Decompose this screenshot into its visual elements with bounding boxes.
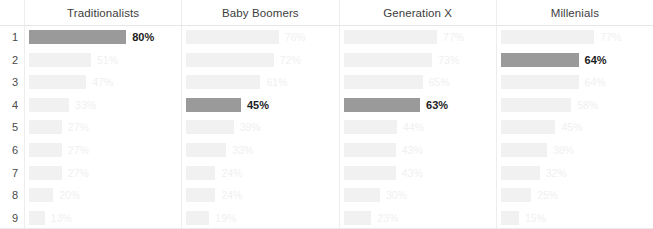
bar-value-label: 24% [215,189,242,201]
bar-track: 77% [344,26,492,49]
bar-track: 72% [186,49,334,72]
bar-track: 43% [344,161,492,184]
bar-cell-baby-boomers: 76% [181,26,338,49]
bar-faded [344,143,396,157]
chart-body: 180%76%77%77%251%72%73%64%347%61%65%64%4… [0,26,653,229]
bar-value-label: 39% [234,121,261,133]
bar-track: 47% [29,71,177,94]
bar-value-label: 23% [371,212,398,224]
bar-track: 27% [29,116,177,139]
bar-value-label: 43% [396,144,423,156]
chart-row: 347%61%65%64% [0,71,653,94]
bar-track: 20% [29,184,177,207]
bar-value-label: 77% [437,31,464,43]
bar-track: 44% [344,116,492,139]
bottom-divider [0,228,653,229]
chart-row: 820%24%30%25% [0,184,653,207]
bar-track: 15% [501,206,649,229]
bar-highlighted [344,98,421,112]
bar-faded [344,30,438,44]
bar-cell-millenials: 64% [496,49,653,72]
bar-value-label: 25% [531,189,558,201]
bar-value-label: 30% [380,189,407,201]
bar-value-label: 15% [519,212,546,224]
row-rank-label: 9 [0,206,24,229]
bar-track: 63% [344,94,492,117]
bar-cell-traditionalists: 33% [24,94,181,117]
bar-cell-millenials: 45% [496,116,653,139]
bar-cell-traditionalists: 27% [24,139,181,162]
bar-cell-baby-boomers: 39% [181,116,338,139]
bar-value-label: 65% [423,76,450,88]
bar-faded [501,30,595,44]
bar-faded [186,120,233,134]
bar-value-label: 73% [432,54,459,66]
bar-highlighted [29,30,126,44]
bar-track: 76% [186,26,334,49]
bar-faded [186,166,215,180]
bar-cell-generation-x: 30% [339,184,496,207]
bar-cell-generation-x: 44% [339,116,496,139]
bar-cell-generation-x: 43% [339,161,496,184]
bar-track: 64% [501,49,649,72]
bar-value-label: 27% [62,167,89,179]
chart-row: 527%39%44%45% [0,116,653,139]
bar-faded [501,120,556,134]
bar-highlighted [501,53,579,67]
bar-cell-generation-x: 77% [339,26,496,49]
row-rank-label: 7 [0,161,24,184]
row-rank-label: 5 [0,116,24,139]
bar-faded [29,166,62,180]
bar-cell-traditionalists: 47% [24,71,181,94]
row-rank-label: 6 [0,139,24,162]
bar-faded [344,53,433,67]
bar-cell-baby-boomers: 33% [181,139,338,162]
row-rank-label: 8 [0,184,24,207]
bar-faded [501,143,547,157]
bar-cell-generation-x: 65% [339,71,496,94]
column-header-generation-x: Generation X [339,0,496,25]
bar-value-label: 43% [396,167,423,179]
bar-cell-traditionalists: 51% [24,49,181,72]
bar-faded [344,188,380,202]
bar-cell-millenials: 58% [496,94,653,117]
bar-cell-generation-x: 63% [339,94,496,117]
bar-faded [186,30,278,44]
bar-track: 73% [344,49,492,72]
bar-cell-millenials: 32% [496,161,653,184]
column-header-baby-boomers: Baby Boomers [181,0,338,25]
bar-value-label: 13% [45,212,72,224]
bar-track: 24% [186,161,334,184]
bar-cell-millenials: 38% [496,139,653,162]
bar-faded [344,120,397,134]
bar-track: 23% [344,206,492,229]
bar-value-label: 19% [209,212,236,224]
bar-track: 25% [501,184,649,207]
bar-value-label: 45% [555,121,582,133]
chart-row: 433%45%63%58% [0,94,653,117]
bar-faded [29,143,62,157]
bar-cell-baby-boomers: 24% [181,184,338,207]
bar-faded [501,166,540,180]
bar-highlighted [186,98,241,112]
bar-value-label: 64% [579,76,606,88]
bar-track: 27% [29,161,177,184]
chart-row: 251%72%73%64% [0,49,653,72]
bar-track: 24% [186,184,334,207]
row-rank-label: 2 [0,49,24,72]
bar-cell-baby-boomers: 45% [181,94,338,117]
bar-cell-traditionalists: 27% [24,161,181,184]
bar-faded [344,166,396,180]
bar-value-label: 47% [86,76,113,88]
bar-value-label: 77% [594,31,621,43]
bar-cell-baby-boomers: 19% [181,206,338,229]
chart-row: 627%33%43%38% [0,139,653,162]
column-header-traditionalists: Traditionalists [24,0,181,25]
bar-track: 13% [29,206,177,229]
bar-cell-traditionalists: 13% [24,206,181,229]
bar-faded [29,75,86,89]
bar-cell-traditionalists: 20% [24,184,181,207]
bar-track: 45% [501,116,649,139]
bar-cell-baby-boomers: 24% [181,161,338,184]
bar-faded [501,211,519,225]
